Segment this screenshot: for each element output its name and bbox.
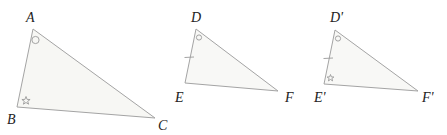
vertex-label-c: C xyxy=(158,118,168,133)
triangle-def-shape xyxy=(185,29,278,91)
triangle-d-prime-e-prime-f-prime-shape xyxy=(324,30,418,91)
vertex-label-d: D xyxy=(190,10,201,25)
triangle-abc: A B C xyxy=(7,10,168,133)
triangle-d-prime-e-prime-f-prime: D' E' F' xyxy=(313,10,435,105)
side-d-prime-e-prime-tick-icon xyxy=(324,58,334,59)
vertex-label-f: F xyxy=(284,90,294,105)
diagram-canvas: A B C D E F D' E' F' xyxy=(0,0,447,135)
vertex-label-b: B xyxy=(7,112,16,127)
triangle-def: D E F xyxy=(174,10,294,105)
vertex-label-e: E xyxy=(174,90,184,105)
vertex-label-a: A xyxy=(25,10,35,25)
vertex-label-f-prime: F' xyxy=(421,90,435,105)
side-de-tick-icon xyxy=(185,57,195,58)
vertex-label-e-prime: E' xyxy=(313,90,327,105)
vertex-label-d-prime: D' xyxy=(329,10,344,25)
